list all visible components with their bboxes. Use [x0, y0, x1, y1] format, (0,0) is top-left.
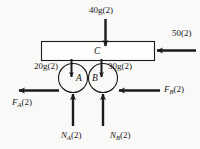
- wheel-b-label: B: [92, 74, 98, 84]
- normal-a-suffix: (2): [71, 130, 82, 140]
- normal-b-suffix: (2): [120, 130, 131, 140]
- wheel-a-label: A: [76, 74, 82, 84]
- friction-a-label: FA(2): [12, 98, 32, 109]
- weight-b-label: 30g(2): [108, 62, 132, 71]
- bar-c-label: C: [94, 47, 100, 57]
- weight-a-label: 20g(2): [34, 62, 58, 71]
- friction-a-suffix: (2): [21, 97, 32, 107]
- weight-bar-label: 40g(2): [89, 6, 113, 15]
- wheel-a-body: [59, 64, 88, 93]
- friction-b-label: FB(2): [164, 85, 184, 96]
- normal-b-label: NB(2): [110, 131, 131, 142]
- diagram-canvas: [0, 0, 200, 149]
- applied-load-label: 50(2): [172, 29, 192, 38]
- normal-a-label: NA(2): [61, 131, 82, 142]
- free-body-diagram-figure: C A B 40g(2) 50(2) 20g(2) 30g(2) FA(2) F…: [0, 0, 200, 149]
- friction-b-suffix: (2): [173, 84, 184, 94]
